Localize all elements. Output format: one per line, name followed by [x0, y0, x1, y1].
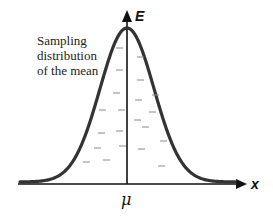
mu-label: μ — [121, 190, 131, 209]
sampling-distribution-diagram: x E μ Sampling distribution of the mean — [0, 0, 273, 219]
caption-line-1: Sampling — [37, 33, 87, 48]
y-axis-arrow-icon — [122, 10, 132, 22]
x-axis-arrow-icon — [236, 179, 247, 189]
y-axis-label: E — [135, 8, 145, 24]
x-axis-label: x — [250, 176, 260, 192]
caption-line-2: distribution — [37, 48, 97, 63]
caption-line-3: of the mean — [37, 63, 99, 78]
